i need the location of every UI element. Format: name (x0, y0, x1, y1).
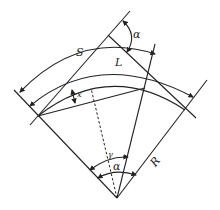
label-R: R (147, 154, 163, 169)
x-offset-indicator (72, 90, 75, 103)
label-alpha-bottom: α (113, 160, 121, 173)
curve-geometry-diagram: α S L x γ α R (0, 0, 220, 210)
diagram-canvas: α S L x γ α R (0, 0, 220, 210)
label-S: S (76, 46, 84, 59)
left-radius-line (14, 90, 117, 198)
label-alpha-top: α (133, 28, 141, 41)
label-x: x (77, 90, 82, 99)
label-gamma: γ (108, 150, 113, 159)
label-L: L (114, 56, 122, 69)
alpha-bottom-arc (98, 172, 136, 178)
arc-L (30, 75, 193, 106)
dashed-line (91, 88, 117, 198)
arc-S (20, 47, 155, 92)
